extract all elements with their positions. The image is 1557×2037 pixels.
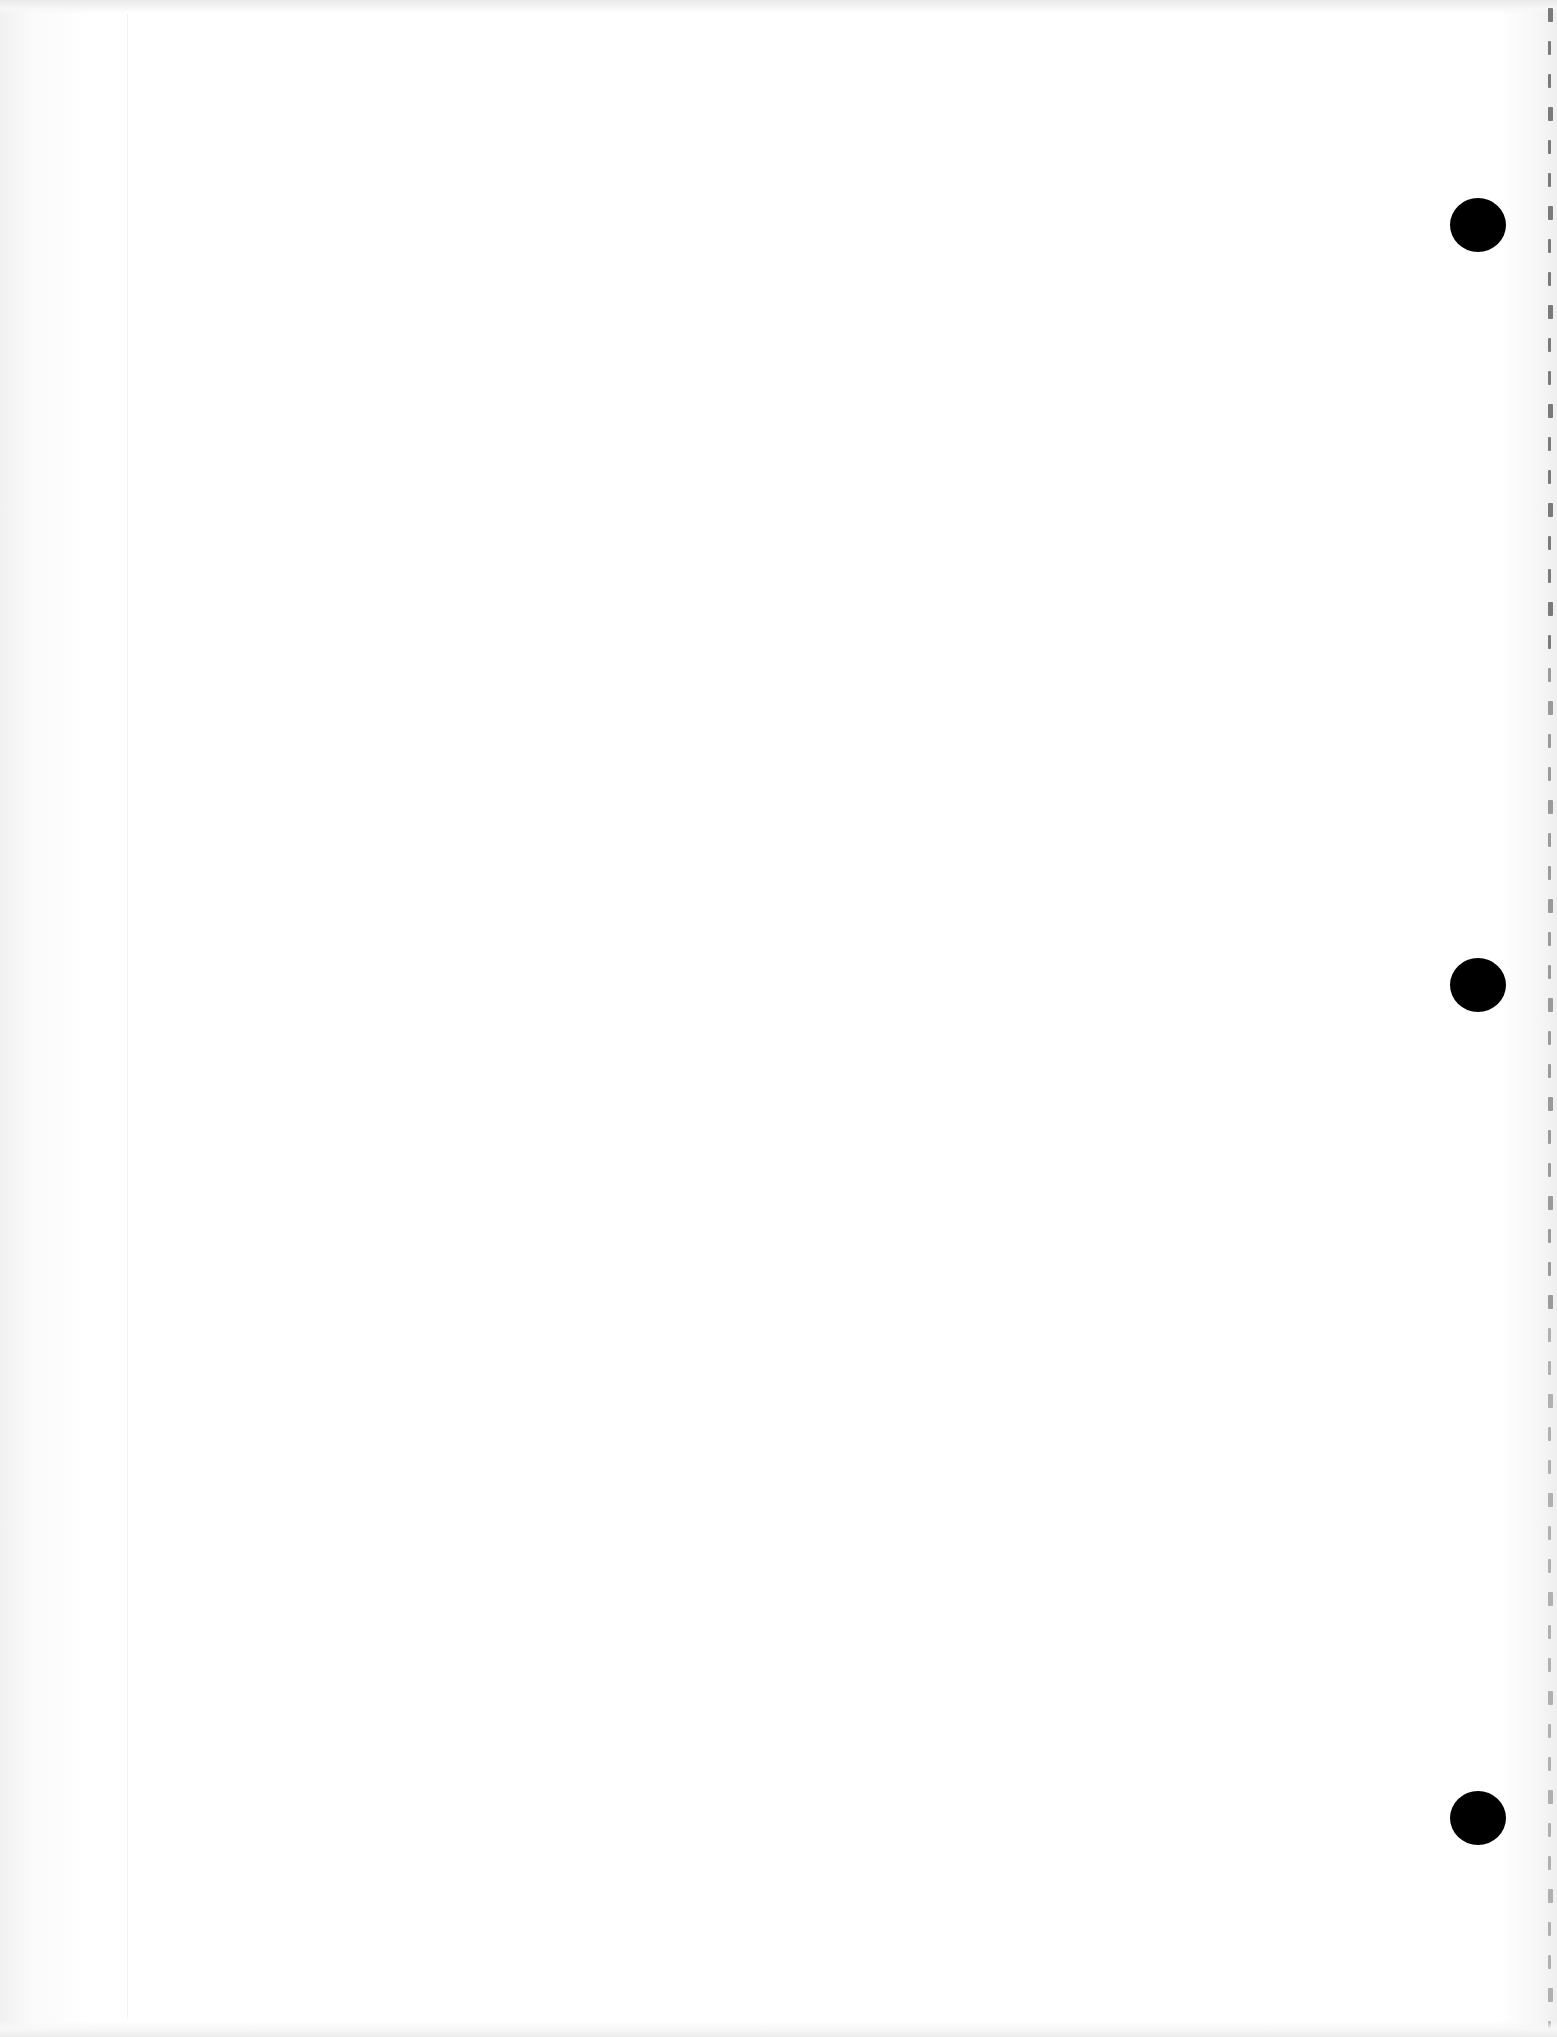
perforation-dash [1548,767,1551,781]
perforation-dash [1548,899,1553,913]
perforation-dash [1548,371,1551,385]
perforation-dash [1548,1031,1551,1045]
punch-hole-middle-icon [1450,958,1506,1012]
perforation-dash [1548,1196,1553,1210]
perforation-dash [1548,1493,1553,1507]
perforation-dash [1548,1130,1551,1144]
perforation-dash [1548,1097,1553,1111]
perforation-dash [1548,437,1551,451]
perforation-dash [1548,1262,1551,1276]
perforation-dash [1548,1460,1551,1474]
perforation-dash [1548,107,1553,121]
perforation-dash [1548,833,1551,847]
perforation-dash [1548,1988,1553,2002]
perforation-dash [1548,338,1551,352]
perforation-dash [1548,1559,1551,1573]
perforation-dash [1548,1955,1551,1969]
punch-hole-bottom-icon [1450,1791,1506,1845]
perforation-dash [1548,932,1551,946]
perforation-dash [1548,41,1551,55]
perforation-dash [1548,1724,1551,1738]
perforation-dash [1548,1658,1551,1672]
perforation-dash [1548,602,1553,616]
perforation-dash [1548,404,1553,418]
perforation-dash [1548,74,1551,88]
page-bottom-edge-shadow [0,2021,1557,2037]
perforation-dash [1548,1625,1551,1639]
perforation-dash [1548,998,1553,1012]
perforation-dash [1548,1295,1553,1309]
margin-line [127,14,128,2019]
perforation-dash [1548,635,1551,649]
perforation-dash [1548,1328,1551,1342]
perforation-dash [1548,1592,1553,1606]
perforation-dash [1548,470,1551,484]
notebook-page [0,0,1557,2037]
perforation-dash [1548,272,1551,286]
page-top-edge-shadow [0,0,1557,14]
perforation-dash [1548,536,1551,550]
perforation-dash [1548,1757,1551,1771]
perforated-edge [1548,0,1557,2037]
perforation-dash [1548,1922,1551,1936]
perforation-dash [1548,1526,1551,1540]
perforation-dash [1548,965,1551,979]
perforation-dash [1548,1823,1551,1837]
perforation-dash [1548,1790,1553,1804]
perforation-dash [1548,140,1551,154]
perforation-dash [1548,1229,1551,1243]
perforation-dash [1548,1064,1551,1078]
perforation-dash [1548,1394,1553,1408]
punch-hole-top-icon [1450,198,1506,252]
perforation-dash [1548,8,1553,22]
perforation-dash [1548,668,1551,682]
perforation-dash [1548,1361,1551,1375]
perforation-dash [1548,503,1553,517]
perforation-dash [1548,569,1551,583]
perforation-dash [1548,800,1553,814]
perforation-dash [1548,1691,1553,1705]
perforation-dash [1548,305,1553,319]
perforation-dash [1548,1427,1551,1441]
perforation-dash [1548,866,1551,880]
perforation-dash [1548,173,1551,187]
perforation-dash [1548,239,1551,253]
perforation-dash [1548,206,1553,220]
perforation-dash [1548,701,1553,715]
perforation-dash [1548,734,1551,748]
perforation-dash [1548,1163,1551,1177]
perforation-dash [1548,1856,1551,1870]
perforation-dash [1548,1889,1553,1903]
